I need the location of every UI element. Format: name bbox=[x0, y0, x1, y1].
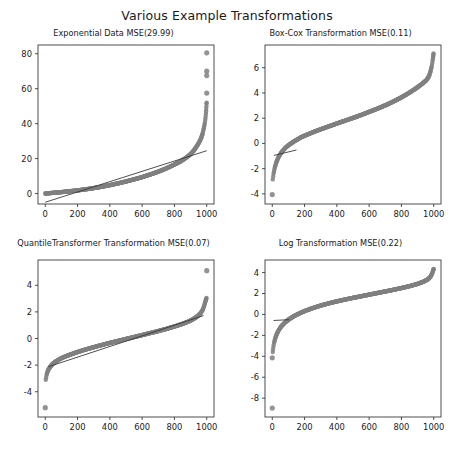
x-tick-label: 800 bbox=[166, 209, 182, 219]
axes-quantile: 02004006008001000-4-2024 bbox=[0, 238, 227, 451]
x-tick-label: 1000 bbox=[423, 209, 444, 219]
x-tick-label: 600 bbox=[134, 422, 150, 432]
y-tick-label: -6 bbox=[251, 372, 259, 382]
x-tick-label: 200 bbox=[70, 209, 86, 219]
axes-exponential: 02004006008001000020406080 bbox=[0, 28, 227, 236]
outlier-point bbox=[270, 406, 275, 411]
figure-title: Various Example Transformations bbox=[0, 8, 454, 23]
regression-line bbox=[48, 316, 203, 367]
subplot-exponential: Exponential Data MSE(29.99) 020040060080… bbox=[0, 28, 227, 236]
subplot-quantile: QuantileTransformer Transformation MSE(0… bbox=[0, 238, 227, 451]
y-tick-label: 2 bbox=[254, 113, 259, 123]
y-tick-label: -2 bbox=[251, 164, 259, 174]
y-tick-label: -2 bbox=[24, 360, 32, 370]
x-tick-label: 1000 bbox=[196, 422, 217, 432]
x-tick-label: 400 bbox=[102, 422, 118, 432]
regression-line bbox=[45, 151, 206, 203]
y-tick-label: 2 bbox=[254, 288, 259, 298]
y-tick-label: 40 bbox=[21, 119, 32, 129]
data-point bbox=[431, 267, 435, 271]
x-tick-label: 0 bbox=[270, 209, 275, 219]
scatter-series bbox=[44, 296, 209, 382]
scatter-series bbox=[270, 192, 275, 197]
x-tick-label: 400 bbox=[329, 422, 345, 432]
x-tick-label: 0 bbox=[43, 422, 48, 432]
axes-log: 02004006008001000-8-6-4-2024 bbox=[227, 238, 454, 451]
y-tick-label: -4 bbox=[251, 189, 259, 199]
x-tick-label: 200 bbox=[297, 422, 313, 432]
scatter-series bbox=[271, 51, 436, 181]
outlier-point bbox=[270, 192, 275, 197]
x-tick-label: 1000 bbox=[423, 422, 444, 432]
y-tick-label: -2 bbox=[251, 330, 259, 340]
scatter-series bbox=[204, 50, 209, 95]
x-tick-label: 600 bbox=[134, 209, 150, 219]
y-tick-label: -4 bbox=[251, 351, 259, 361]
figure-canvas: Various Example Transformations Exponent… bbox=[0, 0, 454, 451]
x-tick-label: 1000 bbox=[196, 209, 217, 219]
x-tick-label: 400 bbox=[329, 209, 345, 219]
y-tick-label: 80 bbox=[21, 49, 32, 59]
y-tick-label: 6 bbox=[254, 63, 259, 73]
x-tick-label: 0 bbox=[43, 209, 48, 219]
outlier-point bbox=[204, 50, 209, 55]
subplot-log: Log Transformation MSE(0.22) 02004006008… bbox=[227, 238, 454, 451]
outlier-point bbox=[204, 90, 209, 95]
x-tick-label: 0 bbox=[270, 422, 275, 432]
x-tick-label: 800 bbox=[393, 209, 409, 219]
x-tick-label: 800 bbox=[166, 422, 182, 432]
x-tick-label: 600 bbox=[361, 422, 377, 432]
data-point bbox=[204, 296, 208, 300]
outlier-point bbox=[204, 73, 209, 78]
x-tick-label: 800 bbox=[393, 422, 409, 432]
y-tick-label: 4 bbox=[254, 88, 259, 98]
scatter-series bbox=[270, 355, 275, 410]
axes-boxcox: 02004006008001000-4-20246 bbox=[227, 28, 454, 236]
data-point bbox=[431, 51, 435, 55]
y-tick-label: 4 bbox=[254, 268, 259, 278]
y-tick-label: 2 bbox=[27, 307, 32, 317]
scatter-series bbox=[43, 100, 209, 195]
scatter-series bbox=[271, 267, 436, 355]
outlier-point bbox=[270, 355, 275, 360]
y-tick-label: 0 bbox=[254, 309, 259, 319]
outlier-point bbox=[43, 405, 48, 410]
data-point bbox=[204, 100, 208, 104]
x-tick-label: 200 bbox=[297, 209, 313, 219]
plot-frame bbox=[265, 45, 441, 204]
y-tick-label: 0 bbox=[254, 138, 259, 148]
y-tick-label: 0 bbox=[27, 334, 32, 344]
x-tick-label: 200 bbox=[70, 422, 86, 432]
outlier-point bbox=[204, 268, 209, 273]
y-tick-label: 20 bbox=[21, 154, 32, 164]
x-tick-label: 400 bbox=[102, 209, 118, 219]
y-tick-label: 0 bbox=[27, 189, 32, 199]
y-tick-label: -8 bbox=[251, 393, 259, 403]
x-tick-label: 600 bbox=[361, 209, 377, 219]
y-tick-label: 4 bbox=[27, 280, 32, 290]
y-tick-label: 60 bbox=[21, 84, 32, 94]
y-tick-label: -4 bbox=[24, 387, 32, 397]
subplot-boxcox: Box-Cox Transformation MSE(0.11) 0200400… bbox=[227, 28, 454, 236]
